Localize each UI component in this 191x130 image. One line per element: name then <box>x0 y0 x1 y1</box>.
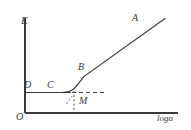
curve-label-a: A <box>132 13 138 23</box>
segment-label-d: D <box>24 80 31 90</box>
point-label-m: M <box>79 96 87 106</box>
segment-label-c: C <box>47 80 54 90</box>
curve-path <box>62 19 165 93</box>
origin-label: O <box>16 112 23 122</box>
angle-tick-icon <box>67 95 74 104</box>
energy-vs-loga-graph <box>0 0 191 130</box>
x-axis-label: loga <box>157 114 173 123</box>
y-axis-label: E <box>21 15 28 26</box>
curve-label-b: B <box>78 62 84 72</box>
